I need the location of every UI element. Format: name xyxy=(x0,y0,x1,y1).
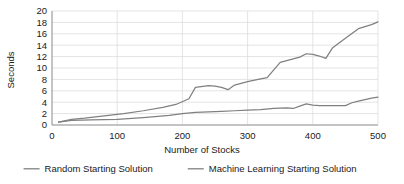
x-tick-label: 400 xyxy=(305,130,321,141)
y-tick-label: 10 xyxy=(36,62,47,73)
y-tick-label: 6 xyxy=(42,85,47,96)
y-tick-label: 18 xyxy=(36,17,47,28)
x-tick-label: 500 xyxy=(370,130,386,141)
x-tick-label: 300 xyxy=(240,130,256,141)
y-tick-label: 0 xyxy=(42,119,47,130)
y-tick-label: 8 xyxy=(42,74,47,85)
chart-background xyxy=(0,0,404,184)
y-tick-label: 16 xyxy=(36,28,47,39)
x-tick-label: 100 xyxy=(109,130,125,141)
y-tick-label: 2 xyxy=(42,108,47,119)
y-tick-label: 12 xyxy=(36,51,47,62)
y-tick-label: 4 xyxy=(42,97,47,108)
x-tick-label: 200 xyxy=(174,130,190,141)
y-tick-label: 14 xyxy=(36,40,47,51)
legend-label-0: Random Starting Solution xyxy=(45,163,153,174)
legend-label-1: Machine Learning Starting Solution xyxy=(209,163,357,174)
line-chart: 02468101214161820 0100200300400500 Numbe… xyxy=(0,0,404,184)
x-axis-title: Number of Stocks xyxy=(164,144,240,155)
y-axis-title: Seconds xyxy=(5,51,16,88)
y-tick-label: 20 xyxy=(36,5,47,16)
chart-canvas: 02468101214161820 0100200300400500 Numbe… xyxy=(0,0,404,184)
x-tick-label: 0 xyxy=(49,130,54,141)
